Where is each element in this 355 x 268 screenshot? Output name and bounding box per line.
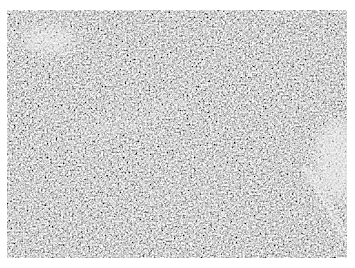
image-frame [0, 0, 355, 268]
tissue-texture [7, 10, 347, 258]
histology-micrograph [7, 10, 347, 258]
